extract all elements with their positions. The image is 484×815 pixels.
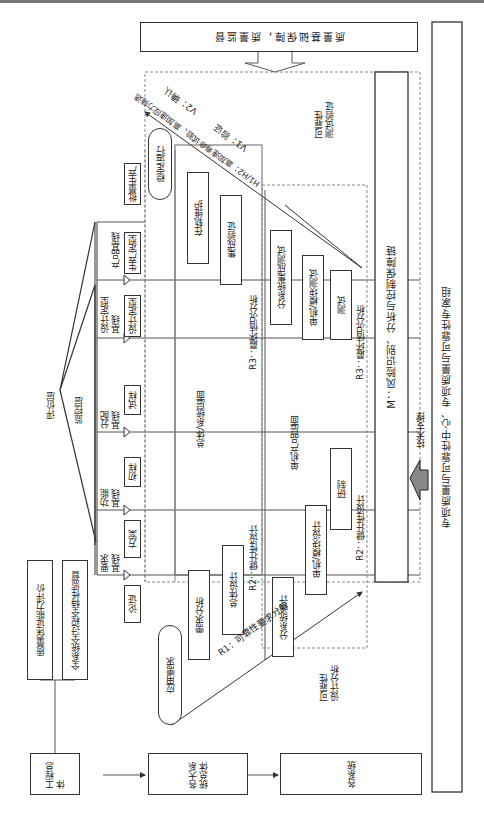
eval-layer-label: 评价层 <box>40 385 60 425</box>
engineering-overall-box: 工程总体 <box>30 753 80 795</box>
r2-label-system: R2：健壮性设计 <box>245 520 261 595</box>
box-on-orbit-maintenance: 在轨维护 <box>187 172 209 264</box>
box-testing: 测试 <box>330 270 352 340</box>
r3-label-system: R3：最坏情况分析 <box>245 290 261 375</box>
phase-mass-production: 批量生产 <box>124 163 141 205</box>
r2-label-unit: R2：健壮性设计 <box>352 490 368 565</box>
unit-level-title: 单机产品层面 <box>285 400 303 485</box>
phase-initial-sample: 初样 <box>124 457 141 487</box>
box-development: 研制 <box>330 448 352 530</box>
box-overall-design: 总体设计 <box>222 545 244 635</box>
r3-label-unit: R3：最坏情况分析 <box>352 300 368 385</box>
phase-production-finalize: 生产定型 <box>124 232 141 274</box>
box-subsystem-integration-test: 分系统集成测试 <box>270 230 292 325</box>
baseline-requirement: 要求基线 <box>98 545 122 575</box>
reliability-test-label: 可靠性 测试验证 <box>310 95 338 145</box>
phase-demonstration: 论证 <box>124 585 141 623</box>
full-supervision-box: 全系统全过程全特性监督 <box>62 560 88 680</box>
system-level-title: 总体/系统层面 <box>190 370 210 470</box>
cloud-stable-operation: 稳定运行 <box>148 128 172 200</box>
quality-foundation-box: 质量基础保障，质量监督 <box>140 22 418 52</box>
cloud-application-need: 应用需求 <box>158 625 182 725</box>
box-requirement-analysis: 需求分析 <box>188 570 210 660</box>
quality-eval-box: 质量保证能力评价 <box>27 560 53 680</box>
baseline-product: 产品基线 <box>108 225 122 275</box>
expert-group-label: 专项质量与可靠性中心、专项质量与可靠性专家组 <box>432 22 462 792</box>
box-unit-module-test: 单机/模块测试 <box>302 255 324 340</box>
phase-scheme: 方案 <box>124 520 141 558</box>
tech-support-label: 技术支撑 <box>412 400 428 460</box>
systems-box: 各系统 <box>280 753 422 795</box>
monitor-layer-label: 监控层 <box>68 390 88 430</box>
baseline-design-finalized: 设计定型基线 <box>98 290 122 335</box>
reliability-design-label: 可靠性 设计分析 <box>315 655 343 710</box>
box-integration-verify: 集成验证 <box>220 195 242 285</box>
box-unit-module-design: 单机/模块设计 <box>305 505 327 595</box>
phase-trial-sample: 试样 <box>124 385 141 415</box>
baseline-allocated: 分配基线 <box>98 402 122 432</box>
risk-chain-label: M：风险识别、分析与控制保障链 <box>375 72 408 582</box>
baseline-functional: 功能基线 <box>98 480 122 510</box>
phase-design-finalize: 设计定型 <box>124 295 141 337</box>
major-systems-box: 各大系统总体 <box>148 753 248 795</box>
